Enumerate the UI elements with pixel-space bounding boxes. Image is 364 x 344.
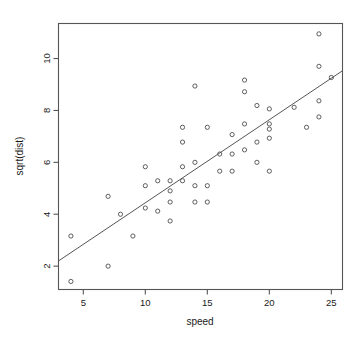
y-tick-label: 6 <box>41 160 52 165</box>
plot-canvas: 510152025 246810 speed sqrt(dist) <box>0 0 364 344</box>
x-axis-title: speed <box>186 316 213 327</box>
y-tick-label: 8 <box>41 108 52 113</box>
x-tick-label: 25 <box>326 297 337 308</box>
x-tick-label: 15 <box>202 297 213 308</box>
x-tick-label: 20 <box>264 297 275 308</box>
scatter-plot-figure: 510152025 246810 speed sqrt(dist) <box>0 0 364 344</box>
y-tick-label: 10 <box>41 53 52 64</box>
y-axis-title: sqrt(dist) <box>14 137 25 176</box>
plot-background <box>0 0 364 344</box>
x-tick-label: 10 <box>140 297 151 308</box>
x-tick-label: 5 <box>81 297 86 308</box>
y-tick-label: 4 <box>41 212 52 217</box>
y-tick-label: 2 <box>41 263 52 268</box>
